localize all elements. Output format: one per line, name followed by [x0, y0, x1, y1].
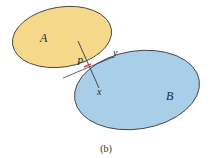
- body-b-label: B: [166, 89, 174, 103]
- contact-point-label: P: [76, 56, 83, 67]
- contact-diagram: A B P y x (b): [0, 0, 212, 158]
- normal-axis-label: x: [96, 86, 102, 97]
- figure-caption: (b): [100, 143, 112, 155]
- tangent-axis-label: y: [112, 47, 118, 58]
- body-a-label: A: [39, 31, 48, 45]
